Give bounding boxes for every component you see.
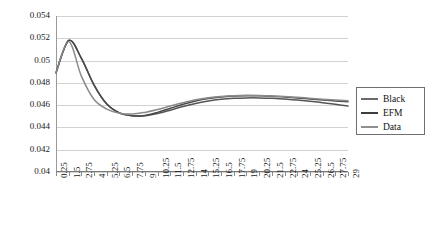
y-tick-label: 0.048: [30, 78, 50, 87]
x-tick-mark: [221, 172, 222, 176]
x-tick-label: 1.5: [73, 167, 82, 178]
x-tick-mark: [348, 172, 349, 176]
series-lines: [56, 16, 348, 172]
x-tick-label: 19: [250, 169, 259, 178]
y-tick-label: 0.052: [30, 33, 50, 42]
x-tick-label: 20.25: [263, 158, 272, 178]
line-chart: 0.0540.0520.050.0480.0460.0440.0420.04 0…: [0, 0, 432, 227]
x-tick-mark: [310, 172, 311, 176]
x-tick-mark: [145, 172, 146, 176]
x-tick-label: 7.75: [136, 162, 145, 178]
y-tick-label: 0.042: [30, 145, 50, 154]
x-tick-label: 0.25: [60, 162, 69, 178]
x-tick-label: 11.5: [174, 163, 183, 178]
x-tick-mark: [56, 172, 57, 176]
y-tick-label: 0.05: [34, 56, 50, 65]
legend-label: EFM: [383, 108, 403, 118]
x-tick-label: 29: [352, 169, 361, 178]
x-tick-mark: [183, 172, 184, 176]
x-tick-mark: [259, 172, 260, 176]
x-tick-label: 6.5: [123, 167, 132, 178]
y-tick-label: 0.044: [30, 122, 50, 131]
x-tick-label: 26.5: [327, 162, 336, 178]
x-tick-label: 4: [98, 174, 107, 179]
legend-swatch-icon: [361, 112, 378, 114]
series-line-data: [56, 42, 348, 114]
y-tick-label: 0.04: [34, 167, 50, 176]
x-tick-label: 22.75: [289, 158, 298, 178]
x-tick-label: 10.25: [162, 158, 171, 178]
x-tick-label: 17.75: [238, 158, 247, 178]
x-tick-mark: [132, 172, 133, 176]
legend-label: Black: [383, 94, 405, 104]
x-tick-label: 9: [149, 174, 158, 179]
legend-swatch-icon: [361, 98, 378, 100]
x-tick-label: 27.75: [339, 158, 348, 178]
x-tick-label: 25.25: [314, 158, 323, 178]
y-tick-label: 0.046: [30, 100, 50, 109]
x-tick-label: 12.75: [187, 158, 196, 178]
x-tick-label: 14: [200, 169, 209, 178]
x-tick-label: 5.25: [111, 162, 120, 178]
x-tick-label: 24: [301, 169, 310, 178]
y-tick-label: 0.054: [30, 11, 50, 20]
x-tick-label: 21.5: [276, 162, 285, 178]
plot-area: [56, 16, 348, 172]
x-tick-label: 16.5: [225, 162, 234, 178]
legend-item-data[interactable]: Data: [361, 120, 401, 133]
x-tick-label: 15.25: [212, 158, 221, 178]
x-tick-mark: [94, 172, 95, 176]
legend-item-black[interactable]: Black: [361, 92, 405, 105]
legend: BlackEFMData: [356, 87, 425, 135]
x-tick-label: 2.75: [85, 162, 94, 178]
legend-swatch-icon: [361, 126, 378, 128]
legend-item-efm[interactable]: EFM: [361, 106, 403, 119]
legend-label: Data: [383, 122, 401, 132]
